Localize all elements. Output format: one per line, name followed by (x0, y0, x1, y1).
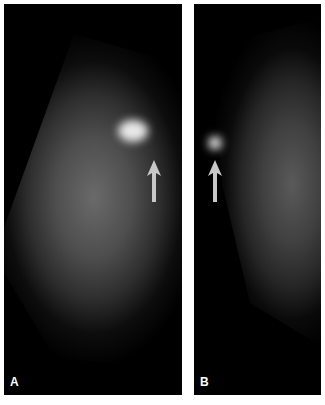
panel-label: A (10, 375, 19, 389)
panel-label: B (200, 375, 209, 389)
lesion (118, 120, 148, 142)
mammogram-panel-b: B (194, 4, 321, 395)
lesion (208, 136, 222, 150)
arrow-up-icon (208, 160, 222, 202)
arrow-up-icon (147, 160, 161, 202)
mammogram-panel-a: A (4, 4, 182, 395)
breast-tissue (4, 34, 182, 374)
